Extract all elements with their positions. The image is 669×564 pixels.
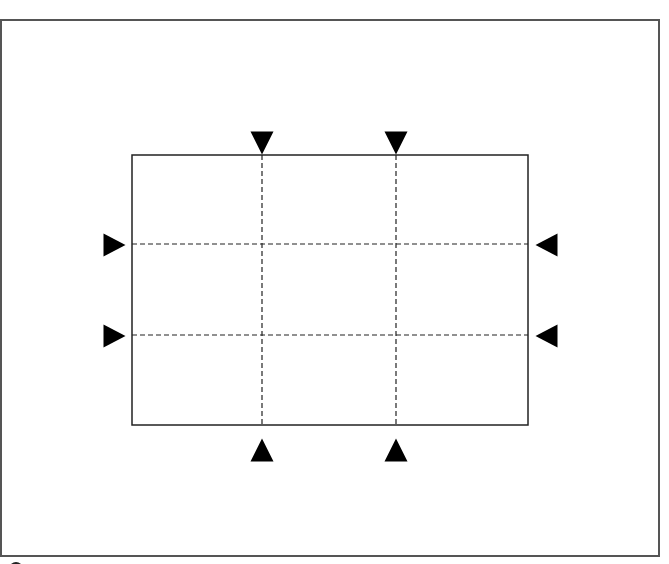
top-marker-right-triangle-icon: [385, 132, 408, 155]
grid-markers: [104, 132, 558, 462]
bottom-marker-left-triangle-icon: [251, 439, 274, 462]
top-marker-left-triangle-icon: [251, 132, 274, 155]
outer-frame: [1, 20, 659, 556]
right-marker-bottom-triangle-icon: [536, 325, 558, 348]
inner-rectangle: [132, 155, 528, 425]
left-marker-top-triangle-icon: [104, 234, 126, 257]
dashed-grid-lines: [132, 155, 528, 425]
bottom-marker-right-triangle-icon: [385, 439, 408, 462]
right-marker-top-triangle-icon: [536, 234, 558, 257]
thirds-grid-diagram: [0, 0, 669, 564]
left-marker-bottom-triangle-icon: [104, 325, 126, 348]
